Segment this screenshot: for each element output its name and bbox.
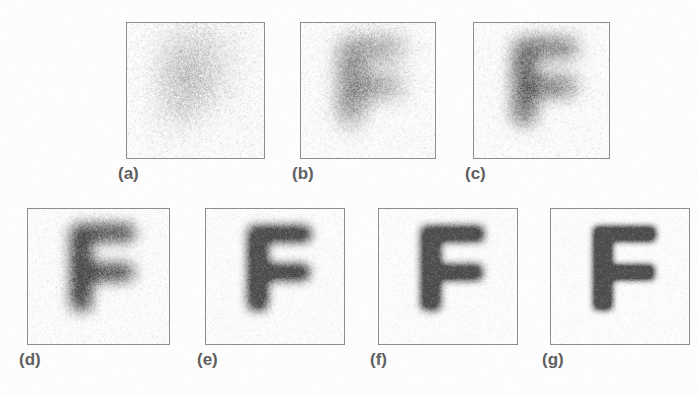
image-panel-c <box>473 22 610 159</box>
blurred-glyph-canvas-b <box>301 23 435 158</box>
figure-root: (a)(b)(c)(d)(e)(f)(g) <box>0 0 698 395</box>
blurred-glyph-canvas-d <box>28 209 169 344</box>
image-panel-d <box>27 208 170 345</box>
panel-label-a: (a) <box>118 164 139 184</box>
panel-label-g: (g) <box>542 350 564 370</box>
blurred-glyph-canvas-f <box>379 209 517 344</box>
panel-label-e: (e) <box>197 350 218 370</box>
panel-label-c: (c) <box>465 164 486 184</box>
panel-label-f: (f) <box>370 350 387 370</box>
blurred-glyph-canvas-e <box>206 209 344 344</box>
image-panel-a <box>126 22 265 159</box>
image-panel-b <box>300 22 436 159</box>
blurred-glyph-canvas-a <box>127 23 264 158</box>
panel-label-d: (d) <box>19 350 41 370</box>
image-panel-f <box>378 208 518 345</box>
blurred-glyph-canvas-c <box>474 23 609 158</box>
image-panel-e <box>205 208 345 345</box>
panel-label-b: (b) <box>292 164 314 184</box>
image-panel-g <box>550 208 690 345</box>
blurred-glyph-canvas-g <box>551 209 689 344</box>
